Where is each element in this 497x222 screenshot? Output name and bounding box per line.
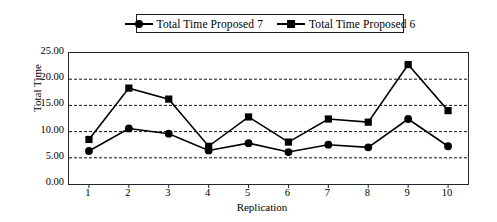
x-tick-label: 5 [236,187,260,198]
x-axis-title: Replication [57,201,467,213]
chart-figure: Total Time Proposed 7 Total Time Propose… [0,0,497,222]
x-tick-label: 7 [315,187,339,198]
x-tick-label: 1 [76,187,100,198]
x-tick-label: 9 [395,187,419,198]
x-tick-label: 8 [355,187,379,198]
x-tick-label: 2 [116,187,140,198]
x-tick-label: 3 [156,187,180,198]
x-tick-label: 10 [435,187,459,198]
x-tick-label: 4 [196,187,220,198]
x-tick-label: 6 [275,187,299,198]
x-axis-tick-labels: 12345678910 [0,0,497,222]
